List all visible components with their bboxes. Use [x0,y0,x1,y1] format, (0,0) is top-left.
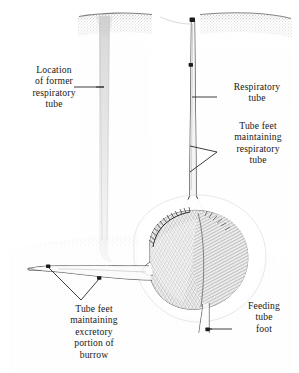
tube-mouth-dot [190,18,195,23]
label-former-respiratory-tube: Location of former respiratory tube [14,64,94,110]
tube-foot-dot-respiratory-1 [189,63,193,67]
label-respiratory-tube: Respiratory tube [219,81,295,104]
figure-burrowing-urchin: Location of former respiratory tube Resp… [0,0,299,373]
label-tube-feet-respiratory: Tube feet maintaining respiratory tube [219,120,297,166]
label-feeding-tube-foot: Feeding tube foot [233,300,295,334]
label-tube-feet-excretory: Tube feet maintaining excretory portion … [38,303,150,360]
respiratory-tube-feet [189,63,193,67]
